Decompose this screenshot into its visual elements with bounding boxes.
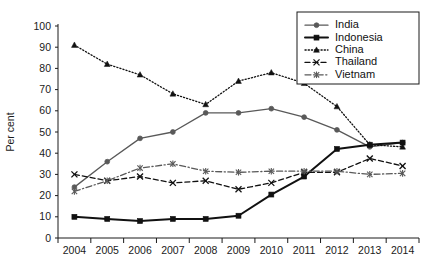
data-point-marker [334,146,339,151]
data-point-marker [314,35,319,40]
data-point-marker [400,163,406,169]
y-axis-title-text: Per cent [4,112,16,151]
x-tick-label: 2006 [128,244,152,256]
x-tick-label: 2005 [96,244,120,256]
y-tick-label: 30 [39,168,51,180]
y-tick-label: 100 [33,20,51,32]
data-point-marker [203,216,208,221]
data-point-marker [104,61,110,66]
x-tick-label: 2010 [260,244,284,256]
data-point-marker [138,219,143,224]
data-point-marker [335,127,340,132]
x-tick-label: 2007 [161,244,185,256]
data-point-marker [105,216,110,221]
legend-label: Indonesia [335,31,384,43]
x-tick-label: 2004 [63,244,87,256]
data-point-marker [236,111,241,116]
data-point-marker [72,42,78,47]
y-tick-label: 60 [39,104,51,116]
legend-label: India [335,18,360,30]
data-point-marker [314,23,319,28]
x-tick-label: 2014 [391,244,415,256]
y-tick-label: 70 [39,83,51,95]
data-point-marker [138,136,143,141]
data-point-marker [203,101,209,106]
y-tick-label: 80 [39,62,51,74]
y-tick-label: 10 [39,210,51,222]
y-axis: 0102030405060708090100 [33,20,58,244]
data-point-marker [170,91,176,96]
y-tick-label: 90 [39,41,51,53]
data-point-marker [137,165,142,172]
series-line [74,143,402,221]
data-point-marker [170,130,175,135]
data-point-marker [105,159,110,164]
y-tick-label: 0 [45,232,51,244]
data-point-marker [269,192,274,197]
data-point-marker [269,106,274,111]
data-point-marker [72,214,77,219]
line-chart: 0102030405060708090100 20042005200620072… [0,0,430,270]
series-line [74,164,402,192]
x-axis: 2004200520062007200820092010201120122013… [58,238,419,256]
chart-canvas: 0102030405060708090100 20042005200620072… [0,0,430,270]
data-point-marker [236,213,241,218]
x-tick-label: 2008 [194,244,218,256]
y-tick-label: 20 [39,189,51,201]
legend-label: Vietnam [335,68,375,80]
data-point-marker [170,216,175,221]
series-india [72,106,405,189]
data-point-marker [268,70,274,75]
chart-legend: IndiaIndonesiaChinaThailandVietnam [297,12,419,84]
x-tick-label: 2011 [293,244,316,256]
y-axis-title: Per cent [4,112,16,151]
x-tick-label: 2009 [227,244,251,256]
y-tick-label: 40 [39,147,51,159]
series-indonesia [72,140,405,223]
x-tick-label: 2013 [358,244,382,256]
data-point-marker [334,103,340,108]
legend-label: Thailand [335,55,377,67]
data-point-marker [203,111,208,116]
legend-label: China [335,43,365,55]
x-tick-label: 2012 [325,244,349,256]
y-tick-label: 50 [39,126,51,138]
data-point-marker [302,115,307,120]
